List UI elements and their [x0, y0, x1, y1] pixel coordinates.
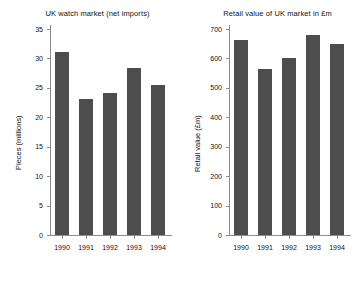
y-axis-tick: 600	[226, 58, 230, 59]
bar	[258, 69, 272, 235]
plot-area: 0510152025303519901991199219931994	[50, 29, 170, 235]
y-axis-tick: 0	[47, 235, 51, 236]
x-axis-tick	[241, 235, 242, 239]
x-axis-tick	[337, 235, 338, 239]
x-axis-tick	[158, 235, 159, 239]
y-axis-tick-label: 600	[210, 54, 222, 63]
y-axis-line	[229, 25, 230, 235]
y-axis-tick-label: 400	[210, 113, 222, 122]
y-axis-tick-label: 200	[210, 172, 222, 181]
y-axis-tick: 25	[47, 88, 51, 89]
x-axis-tick-label: 1991	[257, 243, 273, 252]
x-axis-tick-label: 1993	[126, 243, 142, 252]
y-axis-tick-label: 100	[210, 201, 222, 210]
x-axis-tick	[289, 235, 290, 239]
y-axis-tick-label: 35	[35, 25, 43, 34]
x-axis-tick	[313, 235, 314, 239]
y-axis-tick: 300	[226, 147, 230, 148]
y-axis-tick-label: 0	[39, 231, 43, 240]
bar	[330, 44, 344, 235]
y-axis-tick: 5	[47, 206, 51, 207]
y-axis-tick: 30	[47, 58, 51, 59]
y-axis-tick-label: 5	[39, 201, 43, 210]
chart-title: Retail value of UK market in £m	[179, 9, 358, 18]
x-axis-tick-label: 1990	[233, 243, 249, 252]
x-axis-tick-label: 1990	[54, 243, 70, 252]
x-axis-tick-label: 1994	[150, 243, 166, 252]
x-axis-tick-label: 1994	[329, 243, 345, 252]
y-axis-tick: 35	[47, 29, 51, 30]
bar	[79, 99, 93, 235]
y-axis-tick: 400	[226, 117, 230, 118]
y-axis-tick: 10	[47, 176, 51, 177]
x-axis-line	[229, 235, 351, 236]
bar	[103, 93, 117, 235]
y-axis-tick: 700	[226, 29, 230, 30]
x-axis-tick-label: 1993	[305, 243, 321, 252]
x-axis-tick-label: 1992	[281, 243, 297, 252]
y-axis-tick-label: 700	[210, 25, 222, 34]
y-axis-tick-label: 10	[35, 172, 43, 181]
x-axis-tick	[86, 235, 87, 239]
y-axis-tick-label: 20	[35, 113, 43, 122]
y-axis-tick-label: 500	[210, 83, 222, 92]
x-axis-tick-label: 1991	[78, 243, 94, 252]
x-axis-line	[50, 235, 172, 236]
y-axis-tick-label: 15	[35, 142, 43, 151]
y-axis-line	[50, 25, 51, 235]
y-axis-tick: 20	[47, 117, 51, 118]
bar	[55, 52, 69, 235]
plot-area: 0100200300400500600700199019911992199319…	[229, 29, 349, 235]
bar	[127, 68, 141, 235]
y-axis-tick-label: 25	[35, 83, 43, 92]
bar	[306, 35, 320, 235]
y-axis-tick: 200	[226, 176, 230, 177]
bar	[234, 40, 248, 235]
bar	[151, 85, 165, 235]
y-axis-label: Pieces (millions)	[14, 115, 23, 170]
x-axis-tick	[265, 235, 266, 239]
y-axis-tick-label: 30	[35, 54, 43, 63]
x-axis-tick	[134, 235, 135, 239]
bar	[282, 58, 296, 235]
chart-title: UK watch market (net imports)	[0, 9, 179, 18]
y-axis-tick: 15	[47, 147, 51, 148]
y-axis-tick-label: 300	[210, 142, 222, 151]
x-axis-tick	[62, 235, 63, 239]
chart-panel-uk-watch-market: UK watch market (net imports) Pieces (mi…	[0, 0, 179, 285]
x-axis-tick-label: 1992	[102, 243, 118, 252]
y-axis-tick-label: 0	[218, 231, 222, 240]
y-axis-label: Retail value (£m)	[193, 115, 202, 172]
y-axis-tick: 0	[226, 235, 230, 236]
figure-canvas: UK watch market (net imports) Pieces (mi…	[0, 0, 358, 285]
chart-panel-uk-retail-value: Retail value of UK market in £m Retail v…	[179, 0, 358, 285]
x-axis-tick	[110, 235, 111, 239]
y-axis-tick: 500	[226, 88, 230, 89]
y-axis-tick: 100	[226, 206, 230, 207]
